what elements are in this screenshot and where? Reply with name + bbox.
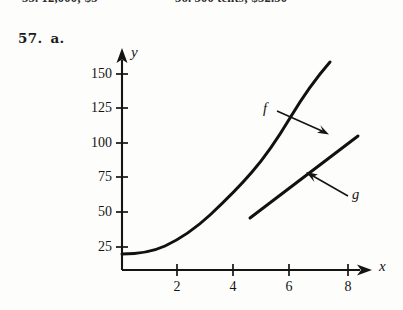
figure-page: 55. 12,000; $5 56. 500 tents; $52.50 57.… [0,0,403,310]
y-tick-label-125: 125 [78,100,112,116]
x-tick-label-4: 4 [225,279,241,295]
x-tick-label-8: 8 [340,279,356,295]
x-tick-label-6: 6 [281,279,297,295]
curve-g [250,136,358,218]
curve-label-g: g [352,186,359,203]
y-tick-label-25: 25 [78,239,112,255]
y-tick-label-75: 75 [78,169,112,185]
annotation-arrow-g [306,172,348,196]
y-axis [117,48,128,270]
y-tick-label-150: 150 [78,66,112,82]
x-axis [122,265,372,276]
curve-label-f: f [263,100,267,117]
curve-f [122,62,330,254]
x-axis-label: x [379,258,386,275]
annotation-arrow-f [277,111,329,135]
x-tick-label-2: 2 [169,279,185,295]
y-tick-label-50: 50 [78,204,112,220]
y-axis-label: y [131,44,138,61]
y-tick-label-100: 100 [78,135,112,151]
graph-figure [0,0,403,310]
